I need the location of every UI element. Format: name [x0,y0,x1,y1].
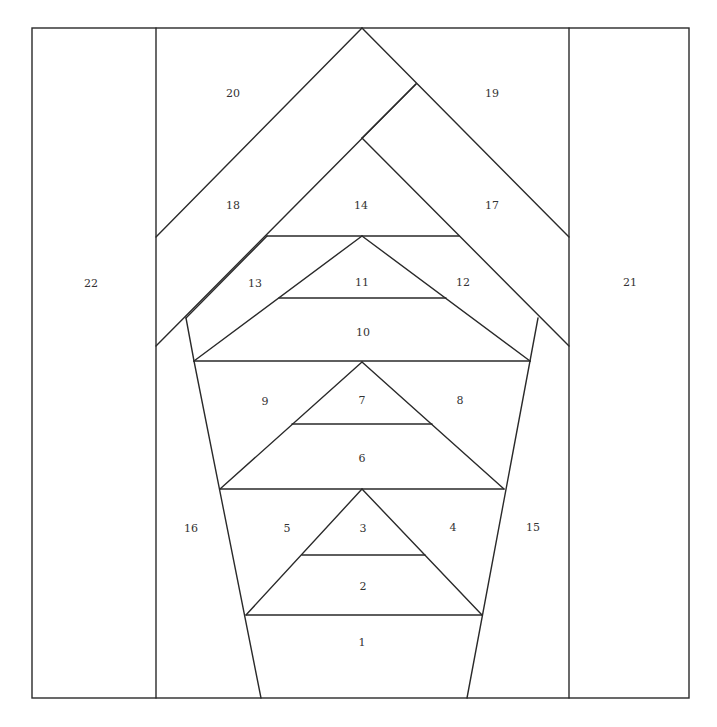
piece-number-4: 4 [450,521,457,534]
piece-number-5: 5 [284,522,291,535]
pattern-diagram: 12345678910111213141516171819202122 [0,0,717,727]
piece-number-7: 7 [359,394,366,407]
piece-number-11: 11 [355,276,369,289]
piece-number-10: 10 [356,326,370,339]
seam-line [362,489,482,615]
piece-number-18: 18 [226,199,240,212]
piece-labels: 12345678910111213141516171819202122 [84,87,637,649]
piece-number-6: 6 [359,452,366,465]
piece-number-17: 17 [485,199,499,212]
piece-number-1: 1 [359,636,366,649]
seam-line [362,28,569,237]
seam-line [156,28,362,237]
piece-number-13: 13 [248,277,262,290]
seam-line [220,362,362,489]
piece-number-8: 8 [457,394,464,407]
seam-line [194,361,261,698]
piece-number-9: 9 [262,395,269,408]
seam-line [362,84,416,138]
piece-number-22: 22 [84,277,98,290]
piece-number-2: 2 [360,580,367,593]
seam-line [362,138,569,346]
seam-line [530,318,538,361]
piece-number-21: 21 [623,276,637,289]
piece-number-14: 14 [354,199,368,212]
piece-number-19: 19 [485,87,499,100]
pattern-svg: 12345678910111213141516171819202122 [0,0,717,727]
piece-number-20: 20 [226,87,240,100]
piece-number-15: 15 [526,521,540,534]
piece-number-12: 12 [456,276,470,289]
seam-line [362,362,504,489]
piece-number-16: 16 [184,522,198,535]
seam-line [246,489,362,615]
seam-line [186,318,194,361]
seam-line [467,361,530,698]
piece-lines [156,28,569,698]
piece-number-3: 3 [360,522,367,535]
